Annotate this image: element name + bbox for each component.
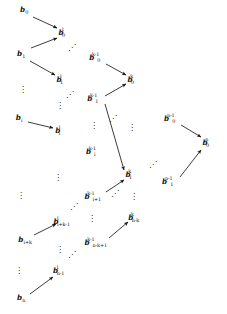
figure-canvas: b0b1bibi+kbnb10b11b1ib1i+k-1b1n-1bk-10bk… [0,0,227,314]
node-subscript: 1 [95,98,98,104]
node-bip1_km1: bk-1i+1 [85,193,106,200]
node-b0_km1: bk-10 [89,54,105,61]
edge-b1_nm1-to-b0_n [180,150,201,177]
ellipsis-e5: ⋰ [109,115,117,123]
node-subscript: 0 [25,9,28,15]
edge-b1-to-b0_1 [31,38,57,48]
node-b0: b0 [20,6,28,13]
ellipsis-e3: ⋰ [70,203,78,211]
node-bnmkp1_km1: bk-1n-k+1 [85,239,112,246]
node-bi: bi [16,114,23,121]
edge-b0_nm1-to-b0_n [181,125,201,137]
node-subscript: n [22,297,25,303]
node-subscript: 1 [170,181,173,187]
ellipsis-e2: ⋰ [66,91,74,99]
ellipsis-v10: ⋮ [130,193,138,201]
node-subscript: n-k [132,217,139,223]
ellipsis-e1: ⋰ [68,44,76,52]
ellipsis-v7: ⋮ [90,122,98,130]
edge-b0-to-b0_1 [33,17,57,28]
node-bi_1: b1i [55,127,65,134]
node-subscript: n-1 [57,270,65,276]
node-b0_n: bn0 [202,139,213,146]
node-b1: b1 [17,50,25,57]
ellipsis-v4: ⋮ [56,102,64,110]
edge-group [28,17,201,294]
node-bnm1_1: b1n-1 [53,267,69,274]
ellipsis-v9: ⋮ [128,124,136,132]
node-subscript: 1 [22,53,25,59]
node-bi_km1: bk-1i [86,148,100,155]
ellipsis-v2: ⋮ [17,192,25,200]
node-bik: bi+k [18,236,32,243]
ellipsis-e4: ⋰ [68,251,76,259]
edge-bnmkp1_km1-to-bnmk_k [109,222,128,238]
node-b1_k: bk1 [125,171,136,178]
edge-b1_km1-to-b0_k [105,84,126,96]
ellipsis-v8: ⋮ [88,215,96,223]
node-bikm1_1: b1i+k-1 [54,218,75,225]
ellipsis-v3: ⋮ [15,267,23,275]
node-bnmk_k: bkn-k [128,214,144,221]
edge-bn-to-bnm1_1 [30,277,53,294]
node-subscript: 0 [62,32,65,38]
node-b0_k: bk0 [127,76,138,83]
edge-b0_km1-to-b0_k [106,64,126,75]
node-superscript: k-1 [89,146,96,152]
ellipsis-v5: ⋮ [54,174,62,182]
node-b1_nm1: bn-11 [162,178,178,185]
node-subscript: 0 [172,118,175,124]
node-subscript: 0 [97,57,100,63]
node-subscript: 1 [60,79,63,85]
node-subscript: i+k [24,239,32,245]
ellipsis-v1: ⋮ [19,86,27,94]
node-subscript: i+1 [92,196,100,202]
node-b0_nm1: bn-10 [164,115,180,122]
ellipsis-e6: ⋰ [111,190,119,198]
node-subscript: 0 [206,142,209,148]
arrow-layer [0,0,227,314]
node-b0_1: b10 [58,29,69,36]
node-b1_1: b11 [56,76,67,83]
edge-b1-to-b1_1 [30,61,55,75]
node-bn: bn [17,294,25,301]
ellipsis-e7: ⋰ [149,161,157,169]
edge-bi-to-bi_1 [28,122,53,128]
node-subscript: i [59,130,60,136]
node-subscript: i+k-1 [57,221,70,227]
ellipsis-v6: ⋮ [56,246,64,254]
node-b1_km1: bk-11 [87,95,103,102]
node-subscript: i [21,117,22,123]
node-subscript: n-k+1 [92,242,106,248]
